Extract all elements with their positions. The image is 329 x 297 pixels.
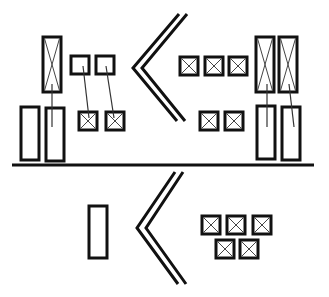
crossed-tall-box (279, 37, 297, 92)
plain-small-box (71, 56, 89, 74)
bottom-chevron (137, 172, 186, 284)
plain-tall-box (89, 206, 107, 258)
crossed-small-box (180, 57, 198, 75)
crossed-small-box (240, 240, 258, 258)
crossed-small-box (79, 112, 97, 130)
plain-tall-box-frame (282, 107, 300, 160)
plain-tall-box (21, 107, 39, 160)
crossed-tall-box (43, 37, 61, 92)
crossed-small-box (253, 216, 271, 234)
crossed-small-box (202, 216, 220, 234)
crossed-small-box (200, 112, 218, 130)
crossed-small-box (106, 112, 124, 130)
bottom-group (89, 206, 271, 258)
plain-small-box (96, 56, 114, 74)
top-left-group (21, 37, 124, 161)
plain-tall-box (46, 108, 64, 161)
plain-tall-box-frame (89, 206, 107, 258)
plain-tall-box (257, 106, 275, 159)
crossed-small-box (225, 112, 243, 130)
crossed-small-box (229, 57, 247, 75)
diagram-canvas (0, 0, 329, 297)
plain-tall-box-frame (46, 108, 64, 161)
plain-tall-box-frame (21, 107, 39, 160)
plain-tall-box-frame (257, 106, 275, 159)
plain-small-box-frame (71, 56, 89, 74)
top-right-group (180, 37, 300, 160)
crossed-tall-box (256, 37, 274, 92)
crossed-small-box (205, 57, 223, 75)
plain-small-box-frame (96, 56, 114, 74)
plain-tall-box (282, 107, 300, 160)
crossed-small-box (216, 240, 234, 258)
crossed-small-box (227, 216, 245, 234)
schematic-diagram (0, 0, 329, 297)
